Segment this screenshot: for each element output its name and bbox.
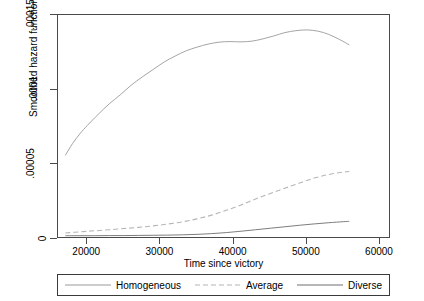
legend-item[interactable]: Average [195, 280, 283, 291]
x-tick [159, 238, 160, 244]
legend-label: Average [246, 280, 283, 291]
x-tick [86, 238, 87, 244]
plot-area [57, 14, 390, 238]
y-tick-label: .00015 [0, 0, 46, 44]
y-tick [50, 163, 57, 164]
series-line [65, 221, 349, 235]
legend-key-icon [297, 281, 343, 289]
legend-key-icon [195, 281, 241, 289]
y-tick-label: .00005 [0, 133, 46, 193]
chart-figure: Smoothed hazard function 0.00005.0001.00… [0, 0, 424, 301]
legend-item[interactable]: Diverse [297, 280, 382, 291]
x-tick [306, 238, 307, 244]
x-tick [379, 238, 380, 244]
x-tick-label: 40000 [203, 246, 263, 257]
x-tick-label: 30000 [129, 246, 189, 257]
x-tick [233, 238, 234, 244]
y-tick [50, 238, 57, 239]
y-tick-label: .0001 [0, 59, 46, 119]
x-tick-label: 50000 [276, 246, 336, 257]
x-axis-title: Time since victory [57, 258, 390, 269]
legend-label: Diverse [348, 280, 382, 291]
series-line [65, 30, 349, 155]
series-line [65, 172, 349, 234]
legend-item[interactable]: Homogeneous [65, 280, 181, 291]
y-tick [50, 14, 57, 15]
legend-key-icon [65, 281, 111, 289]
series-lines [58, 15, 391, 239]
y-tick [50, 89, 57, 90]
x-tick-label: 60000 [349, 246, 409, 257]
y-tick-label: 0 [0, 208, 46, 268]
chart-legend: HomogeneousAverageDiverse [57, 274, 390, 296]
x-tick-label: 20000 [56, 246, 116, 257]
legend-label: Homogeneous [116, 280, 181, 291]
